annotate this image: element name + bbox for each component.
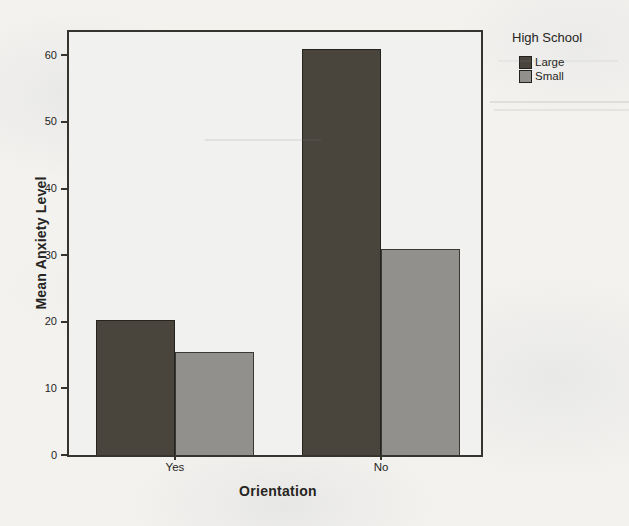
y-axis-tick xyxy=(61,188,68,190)
bar-small-yes xyxy=(175,352,254,455)
scan-artifact-line xyxy=(494,109,629,111)
y-axis-tick-label: 10 xyxy=(25,382,57,395)
legend-entry-label: Small xyxy=(535,70,564,83)
legend: High School LargeSmall xyxy=(512,30,582,83)
bar-small-no xyxy=(381,249,460,456)
legend-entry-label: Large xyxy=(535,56,564,69)
y-axis-tick-label: 0 xyxy=(25,449,57,462)
legend-swatch-large xyxy=(519,56,532,69)
y-axis-tick-label: 60 xyxy=(25,49,57,62)
x-axis-tick-label: Yes xyxy=(145,461,205,473)
y-axis-title: Mean Anxiety Level xyxy=(33,176,49,309)
scanned-page: 0102030405060YesNo Mean Anxiety Level Or… xyxy=(0,0,629,526)
legend-swatch-small xyxy=(519,70,532,83)
x-axis-tick-label: No xyxy=(351,461,411,473)
legend-entries: LargeSmall xyxy=(512,55,582,83)
x-axis-tick xyxy=(380,455,382,460)
legend-title: High School xyxy=(512,30,582,45)
bar-large-no xyxy=(302,49,381,455)
plot-area: 0102030405060YesNo xyxy=(67,30,483,457)
y-axis-tick xyxy=(61,254,68,256)
y-axis-tick xyxy=(61,321,68,323)
legend-entry-small: Small xyxy=(519,69,582,83)
y-axis-tick xyxy=(61,121,68,123)
y-axis-tick-label: 50 xyxy=(25,115,57,128)
x-axis-tick xyxy=(174,455,176,460)
legend-entry-large: Large xyxy=(519,55,582,69)
y-axis-tick-label: 20 xyxy=(25,315,57,328)
x-axis-title: Orientation xyxy=(239,483,317,499)
y-axis-tick xyxy=(61,454,68,456)
bar-large-yes xyxy=(96,320,175,455)
y-axis-tick xyxy=(61,54,68,56)
y-axis-tick xyxy=(61,387,68,389)
scan-artifact-line xyxy=(490,101,629,103)
